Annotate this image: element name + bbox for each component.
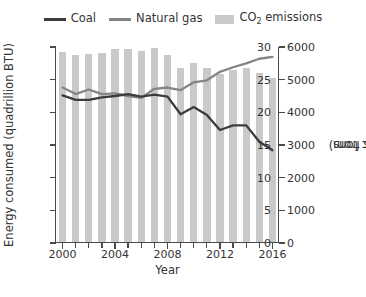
x-tick-2001 xyxy=(75,243,76,248)
y-tick-label-left-25: 25 xyxy=(257,73,271,86)
x-tick-2003 xyxy=(101,243,102,248)
x-tick-label-2008: 2008 xyxy=(154,248,182,261)
x-tick-2006 xyxy=(141,243,142,248)
y-tick-label-right-6000: 6000 xyxy=(287,41,315,54)
legend-label-co2-emissions: CO2 emissions xyxy=(239,12,322,26)
x-tick-2011 xyxy=(206,243,207,248)
y-axis-right-title: Carbon dioxide emissions fromenergy cons… xyxy=(316,47,362,243)
x-tick-2015 xyxy=(259,243,260,248)
y-tick-left-15 xyxy=(50,144,56,145)
y-tick-label-left-15: 15 xyxy=(257,139,271,152)
x-tick-label-2004: 2004 xyxy=(101,248,129,261)
y-tick-label-right-5000: 5000 xyxy=(287,73,315,86)
y-tick-left-0 xyxy=(50,242,56,243)
y-tick-right-5000 xyxy=(279,79,285,80)
y-tick-right-2000 xyxy=(279,177,285,178)
legend-label-coal: Coal xyxy=(71,13,96,25)
y-tick-right-6000 xyxy=(279,46,285,47)
x-tick-2010 xyxy=(193,243,194,248)
x-tick-2013 xyxy=(232,243,233,248)
y-tick-label-right-1000: 1000 xyxy=(287,204,315,217)
y-tick-label-right-3000: 3000 xyxy=(287,139,315,152)
legend-item-coal: Coal xyxy=(44,13,96,25)
y-tick-right-0 xyxy=(279,242,285,243)
legend-item-co2-emissions: CO2 emissions xyxy=(215,12,322,26)
legend-label-co2-main: CO xyxy=(239,10,256,24)
legend-swatch-co2-emissions xyxy=(215,15,234,24)
y-tick-left-5 xyxy=(50,210,56,211)
x-tick-2009 xyxy=(180,243,181,248)
line-series-group xyxy=(56,47,279,243)
legend-line-natural-gas xyxy=(109,18,131,21)
y-tick-left-30 xyxy=(50,46,56,47)
y-tick-label-right-0: 0 xyxy=(287,237,294,250)
legend-item-natural-gas: Natural gas xyxy=(109,13,202,25)
y-axis-right-title-line2: energy consumption (million metric tons) xyxy=(329,138,366,151)
x-tick-2005 xyxy=(127,243,128,248)
y-tick-label-left-20: 20 xyxy=(257,106,271,119)
y-tick-label-left-10: 10 xyxy=(257,171,271,184)
x-tick-label-2012: 2012 xyxy=(206,248,234,261)
y-tick-label-left-5: 5 xyxy=(264,204,271,217)
line-coal xyxy=(63,94,273,150)
line-natural-gas xyxy=(63,57,273,98)
y-tick-label-right-2000: 2000 xyxy=(287,171,315,184)
legend-label-natural-gas: Natural gas xyxy=(136,13,202,25)
x-axis-title: Year xyxy=(56,263,279,277)
legend-line-coal xyxy=(44,18,66,21)
x-tick-2014 xyxy=(246,243,247,248)
y-tick-label-left-30: 30 xyxy=(257,41,271,54)
y-tick-left-20 xyxy=(50,112,56,113)
y-tick-right-1000 xyxy=(279,210,285,211)
y-tick-right-4000 xyxy=(279,112,285,113)
x-tick-label-2000: 2000 xyxy=(49,248,77,261)
y-tick-left-25 xyxy=(50,79,56,80)
legend-label-co2-rest: emissions xyxy=(262,10,323,24)
x-tick-2007 xyxy=(154,243,155,248)
x-tick-2002 xyxy=(88,243,89,248)
y-tick-left-10 xyxy=(50,177,56,178)
plot-area: 0510152025300100020003000400050006000200… xyxy=(56,47,279,243)
y-tick-right-3000 xyxy=(279,144,285,145)
y-tick-label-right-4000: 4000 xyxy=(287,106,315,119)
x-tick-label-2016: 2016 xyxy=(258,248,286,261)
chart-figure: Coal Natural gas CO2 emissions Energy co… xyxy=(0,0,366,297)
chart-legend: Coal Natural gas CO2 emissions xyxy=(0,12,366,26)
y-axis-left-title: Energy consumed (quadrillion BTU) xyxy=(2,47,16,243)
